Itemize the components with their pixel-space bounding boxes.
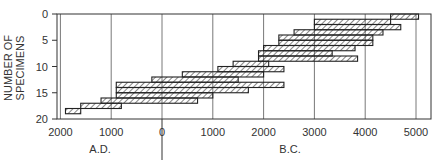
range-bar bbox=[259, 56, 358, 61]
range-bar bbox=[116, 93, 213, 98]
range-bar bbox=[152, 77, 238, 82]
range-bar bbox=[116, 88, 248, 93]
x-tick-label: 1000 bbox=[201, 126, 225, 138]
chart: 05101520 20001000010002000300040005000 N… bbox=[0, 0, 442, 163]
range-bar bbox=[233, 61, 269, 66]
x-label-bc: B.C. bbox=[279, 143, 300, 155]
range-bar bbox=[294, 30, 383, 35]
y-axis-label-line2: SPECIMENS bbox=[14, 36, 26, 101]
range-bar bbox=[81, 103, 122, 108]
x-tick-label: 0 bbox=[159, 126, 165, 138]
y-tick-label: 20 bbox=[36, 113, 48, 125]
range-bar bbox=[264, 46, 355, 51]
range-bar bbox=[116, 82, 284, 87]
y-tick-label: 5 bbox=[42, 34, 48, 46]
range-bar bbox=[314, 25, 400, 30]
range-bar bbox=[391, 14, 419, 19]
range-bar bbox=[65, 109, 80, 114]
x-ticks: 20001000010002000300040005000 bbox=[48, 126, 428, 138]
y-tick-label: 15 bbox=[36, 87, 48, 99]
x-tick-label: 4000 bbox=[353, 126, 377, 138]
x-tick-label: 1000 bbox=[99, 126, 123, 138]
range-bar bbox=[279, 35, 373, 40]
range-bar bbox=[259, 51, 333, 56]
x-tick-label: 2000 bbox=[48, 126, 72, 138]
y-ticks: 05101520 bbox=[36, 8, 57, 125]
y-tick-label: 0 bbox=[42, 8, 48, 20]
range-bar bbox=[314, 19, 390, 24]
y-axis-label-line1: NUMBER OF bbox=[2, 35, 14, 101]
range-bar bbox=[279, 40, 373, 45]
range-bar bbox=[182, 72, 263, 77]
x-label-ad: A.D. bbox=[89, 143, 110, 155]
range-bar bbox=[218, 67, 284, 72]
range-bar bbox=[101, 98, 198, 103]
y-tick-label: 10 bbox=[36, 61, 48, 73]
x-tick-label: 5000 bbox=[404, 126, 428, 138]
x-tick-label: 2000 bbox=[251, 126, 275, 138]
x-tick-label: 3000 bbox=[302, 126, 326, 138]
